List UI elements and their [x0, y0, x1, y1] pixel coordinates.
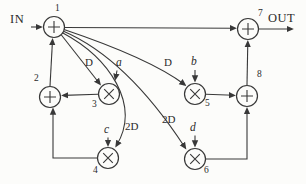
node-5-multiplier	[185, 84, 206, 105]
node-7-adder	[238, 19, 259, 40]
edge-5-to-8	[206, 94, 234, 95]
coefficient-label-c: c	[104, 124, 109, 136]
node-label-4: 4	[93, 166, 98, 176]
edge-1-to-6-delay-2D	[63, 31, 185, 148]
edge-4-to-2	[53, 110, 97, 158]
node-2-adder	[40, 87, 61, 108]
node-label-8: 8	[257, 70, 262, 80]
node-label-1: 1	[55, 4, 60, 14]
edge-1-to-3-delay-D	[61, 35, 100, 84]
signal-flow-diagram: IN OUT 1 2 3 4 5 6 7 8 D D 2D 2D a b c d	[0, 0, 306, 184]
edge-coef-a-to-3	[116, 71, 118, 79]
coefficient-label-d: d	[190, 122, 196, 134]
coefficient-label-b: b	[191, 56, 197, 68]
node-label-5: 5	[205, 99, 210, 109]
input-label: IN	[10, 13, 24, 26]
output-label: OUT	[268, 12, 295, 25]
node-4-multiplier	[98, 148, 119, 169]
edge-6-to-8	[206, 110, 247, 160]
node-label-3: 3	[92, 100, 97, 110]
delay-label-D-left: D	[85, 57, 93, 68]
edge-3-to-2	[64, 94, 99, 95]
node-label-6: 6	[204, 166, 209, 176]
delay-label-D-right: D	[164, 57, 172, 68]
node-label-7: 7	[258, 9, 263, 19]
node-1-adder	[44, 17, 65, 38]
diagram-canvas	[0, 0, 306, 184]
node-3-multiplier	[99, 84, 120, 105]
node-label-2: 2	[34, 74, 39, 84]
node-6-multiplier	[185, 149, 206, 170]
delay-label-2D-right: 2D	[162, 114, 175, 125]
edge-1-to-7	[65, 28, 235, 29]
edge-2-to-1	[50, 41, 53, 87]
edge-8-to-7	[247, 43, 248, 86]
coefficient-label-a: a	[116, 57, 122, 69]
delay-label-2D-left: 2D	[125, 121, 138, 132]
node-8-adder	[237, 86, 258, 107]
